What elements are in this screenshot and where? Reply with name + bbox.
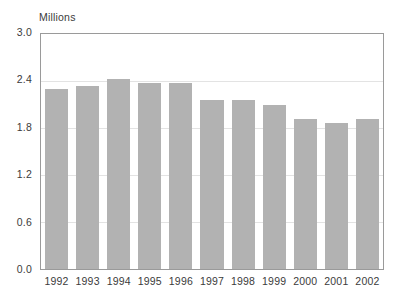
bar-slot [41, 34, 72, 269]
bar[interactable] [263, 105, 286, 270]
bar-chart: Millions 0.00.61.21.82.43.0 199219931994… [0, 0, 404, 304]
bar[interactable] [138, 83, 161, 269]
x-axis-tick-label: 1997 [196, 275, 227, 287]
y-axis-tick-label: 0.0 [6, 263, 32, 275]
y-axis-tick-label: 2.4 [6, 73, 32, 85]
bar-slot [165, 34, 196, 269]
bar-slot [290, 34, 321, 269]
y-axis-tick-label: 1.2 [6, 168, 32, 180]
y-axis-tick-label: 0.6 [6, 216, 32, 228]
bar[interactable] [169, 83, 192, 269]
x-axis-tick-label: 1995 [134, 275, 165, 287]
y-axis-tick-label: 1.8 [6, 121, 32, 133]
x-axis-tick-label: 1999 [259, 275, 290, 287]
x-axis-tick-label: 2000 [290, 275, 321, 287]
bar-slot [134, 34, 165, 269]
x-axis-tick-label: 1993 [72, 275, 103, 287]
plot-area [40, 33, 384, 270]
bar[interactable] [200, 100, 223, 269]
bar[interactable] [356, 119, 379, 269]
bar-slot [103, 34, 134, 269]
bar-slot [72, 34, 103, 269]
x-axis-tick-label: 1994 [103, 275, 134, 287]
y-axis-tick-label: 3.0 [6, 26, 32, 38]
bar-slot [259, 34, 290, 269]
bar[interactable] [294, 119, 317, 269]
x-axis-tick-label: 1992 [41, 275, 72, 287]
bar[interactable] [76, 86, 99, 269]
x-axis-tick-label: 2002 [352, 275, 383, 287]
x-axis-tick-label: 1998 [228, 275, 259, 287]
bar[interactable] [325, 123, 348, 269]
x-axis-tick-label: 2001 [321, 275, 352, 287]
bar-slot [352, 34, 383, 269]
bar-slot [196, 34, 227, 269]
x-axis-tick-label: 1996 [165, 275, 196, 287]
bar-slot [321, 34, 352, 269]
bars-layer [41, 34, 383, 269]
bar[interactable] [232, 100, 255, 269]
bar[interactable] [45, 89, 68, 269]
y-axis-unit-label: Millions [39, 11, 76, 23]
bar[interactable] [107, 79, 130, 269]
bar-slot [228, 34, 259, 269]
